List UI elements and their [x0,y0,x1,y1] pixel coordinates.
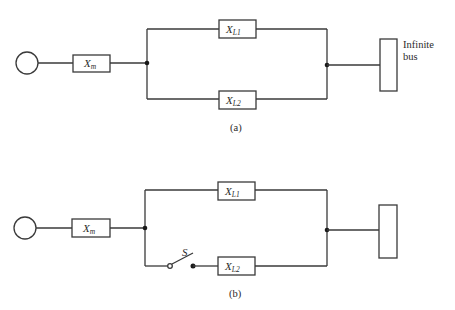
junction-node [145,61,150,66]
caption-a: (a) [230,122,242,134]
infinite-bus-icon [380,39,397,91]
junction-node [143,226,148,231]
infinite-bus-icon [379,205,397,258]
switch-label: S [182,246,188,258]
switch-open-terminal [168,264,173,269]
generator-icon [16,52,38,74]
figure-b: Xm XL1 S XL2 (b) [14,182,397,300]
infinite-bus-label-line1: Infinite [403,39,434,50]
generator-icon [14,217,36,239]
figure-a: Xm XL1 XL2 Infinite bus (a) [16,20,434,134]
infinite-bus-label-line2: bus [403,51,418,62]
caption-b: (b) [229,288,242,300]
circuit-diagrams: Xm XL1 XL2 Infinite bus (a) Xm XL1 [0,0,455,310]
